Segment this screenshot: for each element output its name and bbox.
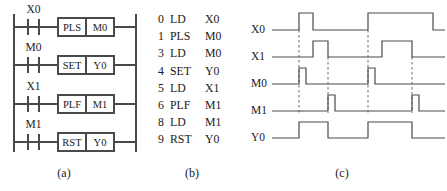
il-mnemonic: LD [170,45,200,62]
il-operand: Y0 [205,63,229,80]
caption-c: (c) [322,166,362,180]
il-step: 8 [150,114,164,131]
il-operand: M0 [205,45,229,62]
il-operand: M1 [205,114,229,131]
contact-label-2: M0 [26,41,42,53]
il-mnemonic: LD [170,114,200,131]
timing-waveform-y0 [272,122,445,138]
il-mnemonic: PLF [170,97,200,114]
instruction-list-row: 8 LD M1 [150,114,250,131]
instruction-list-row: 0 LD X0 [150,11,250,28]
ladder-rung-1: X0 PLS M0 [14,3,136,36]
timing-waveform-x0 [272,13,445,30]
instruction-list-row: 1 PLS M0 [150,28,250,45]
il-mnemonic: LD [170,80,200,97]
timing-label-y0: Y0 [251,131,265,143]
il-step: 4 [150,63,164,80]
instruction-mnemonic-1: PLS [63,22,81,33]
instruction-mnemonic-4: RST [62,137,82,148]
instruction-operand-3: M1 [93,99,108,110]
il-mnemonic: LD [170,11,200,28]
il-step: 5 [150,80,164,97]
instruction-mnemonic-2: SET [63,60,82,71]
il-operand: X1 [205,80,229,97]
ladder-rung-2: M0 SET Y0 [14,41,136,74]
instruction-operand-1: M0 [93,22,108,33]
ladder-diagram-panel: X0 PLS M0 M0 SET Y0 [0,0,148,191]
timing-waveform-x1 [272,41,445,57]
caption-a: (a) [44,166,84,180]
instruction-list-row: 4 SET Y0 [150,63,250,80]
instruction-list-row: 6 PLF M1 [150,97,250,114]
timing-label-m0: M0 [251,77,267,89]
timing-diagram-svg: X0 X1 M0 M1 Y0 [248,0,447,160]
instruction-operand-2: Y0 [94,60,107,71]
il-mnemonic: RST [170,131,200,148]
timing-label-x1: X1 [251,50,265,62]
contact-label-1: X0 [26,3,40,15]
contact-label-3: X1 [26,80,40,92]
timing-guides [299,30,412,113]
caption-b: (b) [172,166,212,180]
il-operand: Y0 [205,131,229,148]
il-mnemonic: SET [170,63,200,80]
il-step: 1 [150,28,164,45]
ladder-diagram-svg: X0 PLS M0 M0 SET Y0 [0,0,148,165]
il-mnemonic: PLS [170,28,200,45]
il-operand: X0 [205,11,229,28]
il-step: 9 [150,131,164,148]
timing-diagram-panel: X0 X1 M0 M1 Y0 [248,0,447,191]
instruction-list-row: 3 LD M0 [150,45,250,62]
timing-waveform-m1 [272,95,445,111]
instruction-operand-4: Y0 [94,137,107,148]
ladder-rung-3: X1 PLF M1 [14,80,136,113]
il-step: 0 [150,11,164,28]
ladder-rung-4: M1 RST Y0 [14,118,136,151]
il-operand: M1 [205,97,229,114]
timing-waveform-m0 [272,68,445,84]
timing-label-x0: X0 [251,23,265,35]
il-step: 6 [150,97,164,114]
instruction-mnemonic-3: PLF [63,99,81,110]
il-operand: M0 [205,28,229,45]
instruction-list-panel: 0 LD X0 1 PLS M0 3 LD M0 4 SET Y0 5 LD X… [150,11,250,149]
plc-figure: X0 PLS M0 M0 SET Y0 [0,0,447,191]
contact-label-4: M1 [26,118,42,130]
il-step: 3 [150,45,164,62]
instruction-list-row: 5 LD X1 [150,80,250,97]
instruction-list-row: 9 RST Y0 [150,131,250,148]
timing-label-m1: M1 [251,104,267,116]
